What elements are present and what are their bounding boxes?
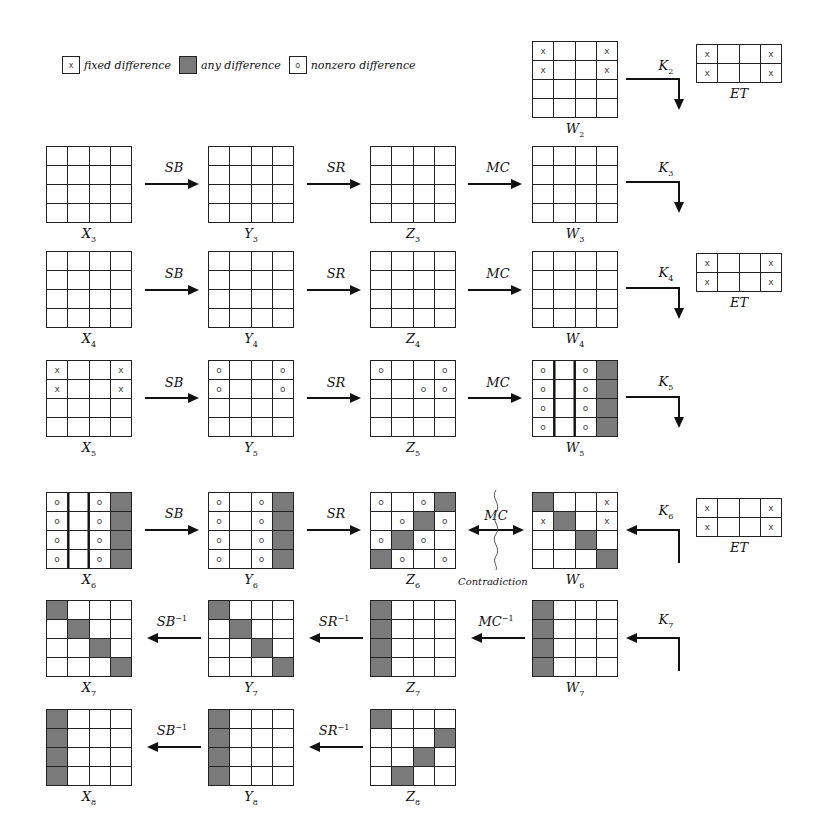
empty-cell <box>554 61 574 79</box>
key-k7-label: K7 <box>636 612 696 630</box>
empty-cell <box>533 531 553 549</box>
arrow-right <box>145 397 189 399</box>
empty-cell <box>371 767 391 785</box>
op-sr-label: SR <box>306 506 366 521</box>
empty-cell <box>392 361 412 379</box>
empty-cell <box>414 601 434 619</box>
state-label-w6: W6 <box>532 572 618 590</box>
empty-cell <box>392 166 412 184</box>
state-label-w4: W4 <box>532 331 618 349</box>
state-grid-y5: oooo <box>208 360 294 437</box>
empty-cell <box>414 252 434 270</box>
state-label-x5: X5 <box>46 440 132 458</box>
empty-cell <box>252 658 272 676</box>
state-grid-et4: xxxx <box>696 253 782 292</box>
arrow-left <box>319 746 363 748</box>
empty-cell <box>392 658 412 676</box>
empty-cell <box>230 639 250 657</box>
empty-cell <box>554 185 574 203</box>
empty-cell <box>392 204 412 222</box>
empty-cell <box>371 271 391 289</box>
arrow-left <box>157 637 201 639</box>
empty-cell <box>533 99 553 117</box>
empty-cell <box>111 399 131 417</box>
empty-cell <box>273 620 293 638</box>
op-sr-label: SR <box>306 375 366 390</box>
empty-cell <box>68 639 88 657</box>
empty-cell <box>68 767 88 785</box>
any-diff-cell <box>414 748 434 766</box>
empty-cell <box>554 493 574 511</box>
empty-cell <box>230 418 250 436</box>
empty-cell <box>554 601 574 619</box>
state-grid-y8 <box>208 709 294 786</box>
empty-cell <box>435 147 455 165</box>
key-arrow <box>678 529 680 563</box>
empty-cell <box>718 273 738 291</box>
state-grid-x6: oooooooo <box>46 492 132 569</box>
empty-cell <box>371 418 391 436</box>
empty-cell <box>90 271 110 289</box>
nonzero-diff-cell: o <box>435 550 455 568</box>
nonzero-diff-cell: o <box>90 493 110 511</box>
empty-cell <box>68 309 88 327</box>
any-diff-cell <box>111 531 131 549</box>
empty-cell <box>252 252 272 270</box>
state-grid-w3 <box>532 146 618 223</box>
nonzero-diff-cell: o <box>209 550 229 568</box>
empty-cell <box>597 271 617 289</box>
state-label-w7: W7 <box>532 680 618 698</box>
fixed-diff-cell: x <box>761 64 781 82</box>
empty-cell <box>414 658 434 676</box>
empty-cell <box>392 290 412 308</box>
op-mc-label: MC <box>468 160 528 175</box>
any-diff-cell <box>597 380 617 398</box>
fixed-diff-cell: x <box>761 254 781 272</box>
state-label-z4: Z4 <box>370 331 456 349</box>
empty-cell <box>230 361 250 379</box>
empty-cell <box>111 620 131 638</box>
empty-cell <box>392 418 412 436</box>
arrowhead-right-icon <box>350 285 361 295</box>
empty-cell <box>230 185 250 203</box>
empty-cell <box>90 309 110 327</box>
empty-cell <box>252 399 272 417</box>
fixed-diff-cell: x <box>597 493 617 511</box>
state-label-et2: ET <box>696 86 782 101</box>
empty-cell <box>209 271 229 289</box>
any-diff-cell <box>533 620 553 638</box>
empty-cell <box>740 254 760 272</box>
empty-cell <box>740 273 760 291</box>
empty-cell <box>554 166 574 184</box>
empty-cell <box>47 147 67 165</box>
any-diff-cell <box>209 767 229 785</box>
nonzero-diff-cell: o <box>47 512 67 530</box>
empty-cell <box>90 166 110 184</box>
empty-cell <box>273 399 293 417</box>
empty-cell <box>68 204 88 222</box>
any-diff-cell <box>47 748 67 766</box>
empty-cell <box>435 309 455 327</box>
empty-cell <box>392 185 412 203</box>
fixed-diff-cell: x <box>533 42 553 60</box>
empty-cell <box>209 418 229 436</box>
arrowhead-left-icon <box>309 633 320 643</box>
empty-cell <box>230 550 250 568</box>
empty-cell <box>533 252 553 270</box>
empty-cell <box>230 710 250 728</box>
empty-cell <box>392 271 412 289</box>
fixed-diff-cell: x <box>597 512 617 530</box>
empty-cell <box>414 166 434 184</box>
any-diff-cell <box>273 512 293 530</box>
empty-cell <box>554 531 574 549</box>
empty-cell <box>414 620 434 638</box>
empty-cell <box>718 64 738 82</box>
state-grid-z3 <box>370 146 456 223</box>
empty-cell <box>392 309 412 327</box>
state-label-w2: W2 <box>532 121 618 139</box>
empty-cell <box>230 271 250 289</box>
empty-cell <box>111 252 131 270</box>
empty-cell <box>576 80 596 98</box>
op-sr-inv-label: SR−1 <box>304 614 364 629</box>
empty-cell <box>597 147 617 165</box>
